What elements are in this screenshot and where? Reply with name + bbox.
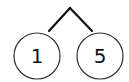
left-branch-line	[49, 8, 70, 31]
right-part-label: 5	[94, 44, 107, 68]
number-bond-diagram: 1 5	[0, 0, 129, 82]
left-part-label: 1	[31, 44, 44, 68]
right-branch-line	[70, 8, 92, 31]
diagram-canvas: 1 5	[0, 0, 129, 82]
